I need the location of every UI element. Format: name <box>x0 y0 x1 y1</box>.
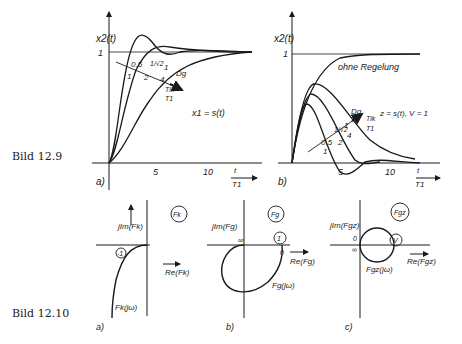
nyq-a-badge: Fk <box>173 211 181 218</box>
nyq-a-point: -1 <box>117 250 123 257</box>
nyq-c-curve-label: Fgz(jω) <box>366 265 393 274</box>
plot-a-ylabel: x2(t) <box>95 33 116 44</box>
plot-b-xlabel-num: t <box>417 166 420 175</box>
nyq-c-panel: c) <box>345 322 353 332</box>
nyq-a-panel: a) <box>96 322 104 332</box>
plot-a-ratio-den: T1 <box>165 95 173 102</box>
figure-canvas: x2(t) 1 5 10 t T1 a) x1 = s(t) 0.5 1 1/√… <box>0 0 462 344</box>
nyq-c-re-label: Re(Fgz) <box>407 257 436 266</box>
plot-b-curve-label: ohne Regelung <box>338 62 399 72</box>
plot-b-ylabel: x2(t) <box>273 33 294 44</box>
nyq-c-im-label: jIm(Fgz) <box>329 221 360 230</box>
plot-a-param-sqrt2: 1/√2 <box>150 60 164 67</box>
plot-b-input: z = s(t), V = 1 <box>379 109 428 118</box>
nyq-c-inf: ∞ <box>352 246 357 253</box>
plot-b-param-2: 2 <box>337 138 343 147</box>
plot-b-param-4: 4 <box>347 131 352 140</box>
plot-a-xtick-5: 5 <box>153 167 159 177</box>
plot-a-curves <box>109 35 252 163</box>
nyq-b-origin-label: ∞ <box>238 236 244 245</box>
nyq-b-panel: b) <box>226 322 234 332</box>
plot-b-param-0.5: 0.5 <box>321 138 333 147</box>
plot-b-y-one: 1 <box>283 49 288 59</box>
plot-b-axes <box>278 12 440 178</box>
plot-a-panel: a) <box>96 176 105 187</box>
nyq-a-curve-label: Fk(jω) <box>115 303 138 312</box>
nyq-b-point: 1 <box>277 235 281 242</box>
nyq-b-re-label: Re(Fg) <box>290 257 315 266</box>
plot-b-param-1: 1 <box>323 147 327 156</box>
plot-a-param-0.5: 0.5 <box>131 60 143 69</box>
plot-a-xtick-10: 10 <box>203 167 213 177</box>
plot-a-param-2: 2 <box>143 73 149 82</box>
plot-b-param-dg: Dg <box>351 107 362 116</box>
plot-a-xlabel-num: t <box>234 166 237 175</box>
plot-a-xlabel-den: T1 <box>232 180 241 189</box>
nyq-b-curve-label: Fg(jω) <box>272 281 295 290</box>
plot-a-ratio-num: Tik <box>165 86 175 93</box>
nyq-c-origin: 0 <box>353 235 357 242</box>
nyq-c-point: V <box>393 237 399 244</box>
plot-b-ratio-den: T1 <box>366 125 374 132</box>
plot-a-input: x1 = s(t) <box>191 108 225 118</box>
nyq-b-zero: 0 <box>280 249 284 256</box>
plot-b-ratio-num: Tik <box>366 115 376 122</box>
plot-b-xtick-10: 10 <box>385 167 395 177</box>
nyq-b-badge: Fg <box>271 211 279 219</box>
nyq-b-im-label: jIm(Fg) <box>211 222 238 231</box>
plot-a-param-1: 1 <box>127 72 131 81</box>
nyq-a-re-label: Re(Fk) <box>165 268 190 277</box>
plot-b-panel: b) <box>278 176 287 187</box>
plot-b-xtick-5: 5 <box>338 167 344 177</box>
nyq-a-im-label: jIm(Fk) <box>117 222 143 231</box>
plot-a-axes <box>92 12 262 190</box>
nyq-c-badge: Fgz <box>394 209 406 217</box>
plot-b-xlabel-den: T1 <box>415 180 424 189</box>
plot-a-y-one: 1 <box>98 48 103 58</box>
plot-a-param-1b: 1 <box>164 63 168 72</box>
plot-a-param-dg: Dg <box>176 69 187 78</box>
plot-b-param-1b: 1 <box>344 121 348 130</box>
plot-a-param-4: 4 <box>160 75 165 84</box>
